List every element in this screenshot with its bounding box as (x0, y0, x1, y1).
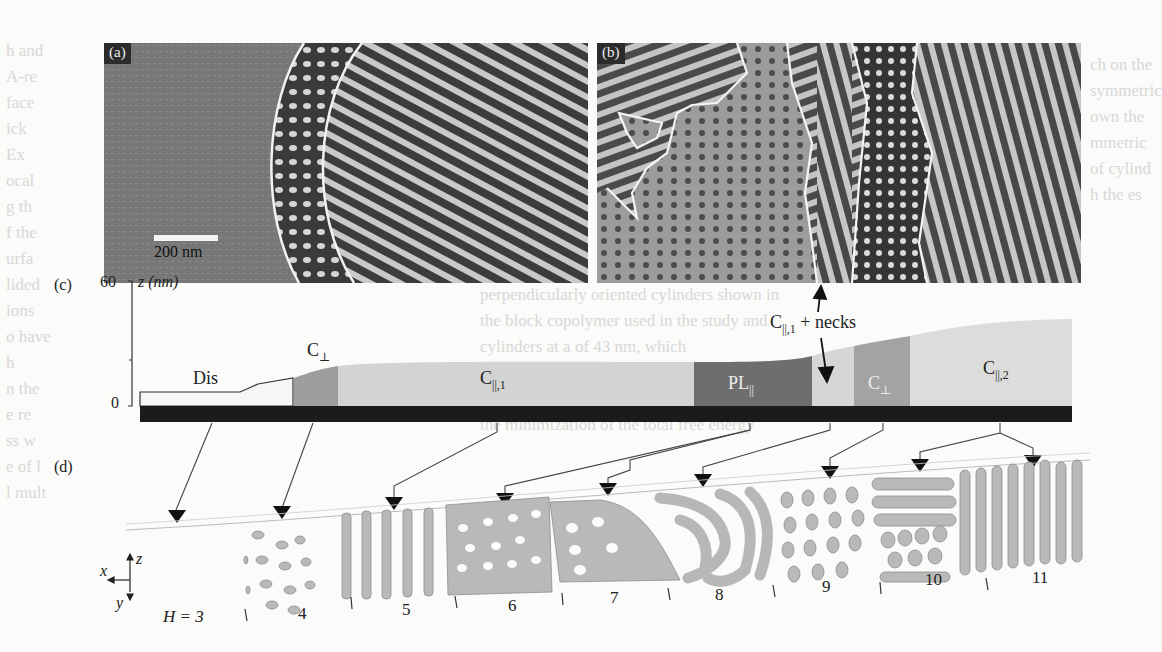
structure-h5 (342, 508, 433, 599)
region-label-pl-par: PL|| (728, 373, 754, 398)
structure-h11 (960, 460, 1082, 575)
axis-y-label: y (116, 594, 123, 612)
structure-h8 (660, 492, 767, 581)
region-label-c-perp-2: C⊥ (868, 373, 891, 398)
region-label-c-par2: C||,2 (983, 358, 1009, 383)
h-label-9: 9 (822, 577, 831, 597)
c-par1-region (338, 362, 694, 406)
region-label-dis: Dis (193, 368, 218, 389)
h-label-4: 4 (298, 604, 307, 624)
h-label-7: 7 (610, 588, 619, 608)
structure-h7 (550, 500, 680, 582)
panel-d-tag: (d) (54, 458, 73, 476)
h-label-5: 5 (402, 600, 411, 620)
h-label-11: 11 (1032, 568, 1048, 588)
axis-z-label: z (136, 550, 142, 568)
structure-h4 (244, 531, 315, 614)
structure-h10 (872, 478, 956, 582)
h-label-8: 8 (715, 585, 724, 605)
substrate-bar (140, 406, 1072, 422)
region-label-c-perp-1: C⊥ (307, 340, 330, 365)
region-label-c-par1: C||,1 (480, 368, 506, 393)
h-label-3: H = 3 (163, 607, 204, 627)
necks-region (812, 346, 854, 406)
structure-h6 (446, 497, 552, 595)
h-label-10: 10 (925, 570, 942, 590)
h-label-6: 6 (508, 596, 517, 616)
c-perp-region-1 (294, 366, 338, 406)
axis-x-label: x (100, 562, 107, 580)
structure-h9 (781, 487, 864, 582)
necks-annotation: C||,1 + necks (770, 312, 856, 337)
